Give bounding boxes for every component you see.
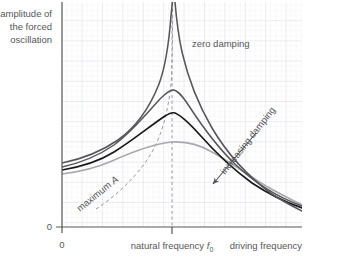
annotation-zero-damping: zero damping xyxy=(192,38,250,49)
y-axis-origin-label: 0 xyxy=(47,221,52,232)
chart-canvas: amplitude of the forced oscillation 0 0 … xyxy=(0,0,348,260)
resonance-chart-figure: amplitude of the forced oscillation 0 0 … xyxy=(0,0,348,260)
natural-frequency-text: natural frequency xyxy=(131,240,207,251)
y-axis-label: amplitude of the forced oscillation xyxy=(0,8,52,45)
y-axis-label-line-3: oscillation xyxy=(10,34,52,45)
y-axis-label-line-2: the forced xyxy=(10,21,52,32)
svg-text:natural frequency f0: natural frequency f0 xyxy=(131,240,214,253)
x-axis-label: driving frequency xyxy=(230,240,303,251)
y-axis-label-line-1: amplitude of xyxy=(0,8,52,19)
natural-frequency-subscript: 0 xyxy=(209,246,213,253)
x-axis-tick-label-natural-frequency: natural frequency f0 xyxy=(131,240,214,253)
x-axis-origin-label: 0 xyxy=(59,239,64,250)
